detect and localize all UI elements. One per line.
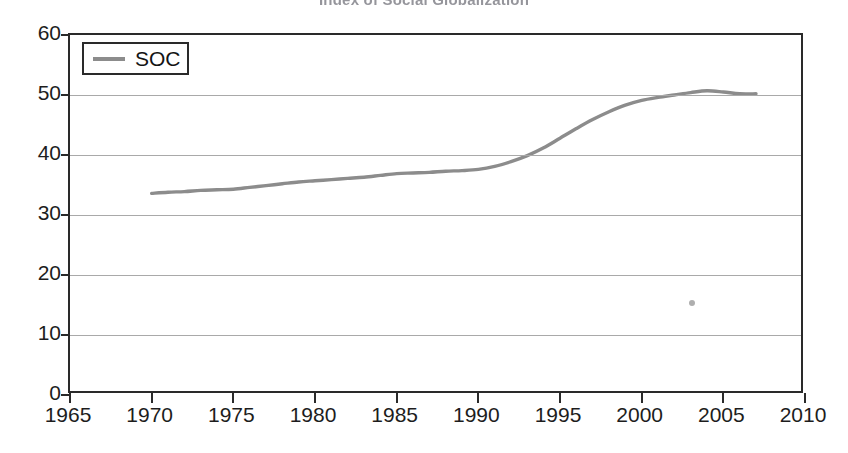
x-axis-label: 1990 — [431, 404, 521, 425]
series-line-soc — [152, 91, 756, 194]
x-axis-tick — [396, 393, 398, 403]
page-title: Index of Social Globalization — [0, 0, 848, 8]
x-axis-label: 1970 — [105, 404, 195, 425]
y-axis-tick — [61, 274, 70, 276]
legend-swatch-soc — [93, 57, 125, 61]
x-axis-tick — [477, 393, 479, 403]
x-axis-label: 2005 — [676, 404, 766, 425]
x-axis-label: 1980 — [268, 404, 358, 425]
legend-label-soc: SOC — [135, 48, 181, 69]
gridline-y — [70, 275, 801, 276]
scan-artifact-speck — [689, 300, 695, 306]
y-axis-label: 50 — [15, 82, 61, 103]
x-axis-tick — [641, 393, 643, 403]
plot-frame — [68, 33, 803, 393]
x-axis-label: 1985 — [350, 404, 440, 425]
y-axis-label: 60 — [15, 22, 61, 43]
y-axis-tick — [61, 34, 70, 36]
x-axis-label: 1995 — [513, 404, 603, 425]
x-axis-label: 1965 — [23, 404, 113, 425]
gridline-y — [70, 95, 801, 96]
y-axis-label: 40 — [15, 142, 61, 163]
y-axis-tick — [61, 154, 70, 156]
y-axis-label: 0 — [15, 382, 61, 403]
y-axis-label: 30 — [15, 202, 61, 223]
x-axis-tick — [559, 393, 561, 403]
x-axis-tick — [151, 393, 153, 403]
gridline-y — [70, 215, 801, 216]
x-axis-tick — [804, 393, 806, 403]
y-axis-tick — [61, 214, 70, 216]
y-axis-label: 20 — [15, 262, 61, 283]
y-axis-label: 10 — [15, 322, 61, 343]
x-axis-label: 2010 — [758, 404, 848, 425]
x-axis-tick — [722, 393, 724, 403]
x-axis-label: 1975 — [186, 404, 276, 425]
gridline-y — [70, 155, 801, 156]
x-axis-label: 2000 — [595, 404, 685, 425]
plot-area — [70, 35, 801, 391]
gridline-y — [70, 335, 801, 336]
x-axis-tick — [314, 393, 316, 403]
y-axis-tick — [61, 94, 70, 96]
chart-screenshot: Index of Social Globalization SOC 010203… — [0, 0, 848, 453]
x-axis-tick — [232, 393, 234, 403]
legend: SOC — [82, 42, 189, 75]
x-axis-tick — [69, 393, 71, 403]
y-axis-tick — [61, 334, 70, 336]
